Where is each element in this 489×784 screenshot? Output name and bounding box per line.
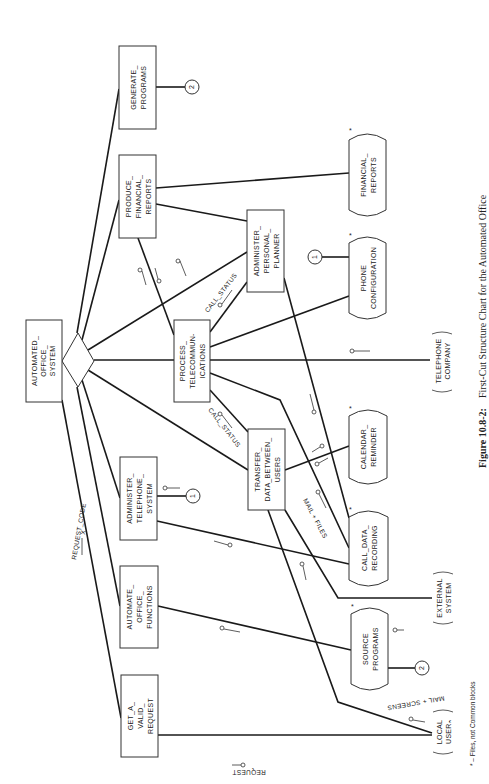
- module-transfer-data-between-users: TRANSFER_ DATA_BETWEEN_ USERS: [248, 429, 285, 510]
- module-process-telecommunications: PROCESS_ TELECOMMUN- ICATIONS: [174, 320, 210, 402]
- connector-1-telephone: 1: [186, 489, 200, 503]
- svg-text:CONFIGURATION: CONFIGURATION: [370, 247, 377, 309]
- file-call-data-recording: * CALL_DATA_ RECORDING: [349, 506, 388, 586]
- svg-text:GET_A_: GET_A_: [127, 702, 135, 731]
- svg-text:2: 2: [188, 85, 195, 89]
- connector-2-source: 2: [415, 661, 429, 675]
- svg-text:PRODUCE_: PRODUCE_: [125, 176, 133, 217]
- svg-text:EXTERNAL: EXTERNAL: [436, 578, 443, 617]
- external-local-user: LOCAL USERₙ: [433, 710, 453, 754]
- svg-text:REQUEST: REQUEST: [147, 698, 155, 734]
- module-produce-financial-reports: PRODUCE_ FINANCIAL_ REPORTS: [119, 155, 156, 238]
- svg-text:*: *: [349, 127, 352, 134]
- svg-text:AUTOMATED_: AUTOMATED_: [31, 336, 39, 386]
- svg-text:1: 1: [311, 255, 318, 259]
- svg-text:MAIL + FILES: MAIL + FILES: [302, 497, 329, 539]
- module-root: AUTOMATED_ OFFICE_ SYSTEM: [26, 320, 62, 402]
- svg-text:1: 1: [189, 494, 196, 498]
- svg-text:ICATIONS: ICATIONS: [199, 344, 206, 379]
- file-financial-reports: * FINANCIAL_ REPORTS: [349, 127, 386, 216]
- svg-text:GENERATE_: GENERATE_: [130, 65, 138, 110]
- svg-text:FUNCTIONS: FUNCTIONS: [146, 585, 153, 629]
- footnote: * – Files, not Common blocks: [469, 681, 476, 766]
- svg-text:SYSTEM: SYSTEM: [445, 583, 452, 614]
- file-calendar-reminder: * CALENDAR_ REMINDER: [349, 405, 387, 484]
- svg-text:COMPANY: COMPANY: [444, 342, 451, 379]
- svg-text:AUTOMATE_: AUTOMATE_: [126, 585, 134, 630]
- svg-text:CALL_STATUS: CALL_STATUS: [203, 271, 239, 314]
- svg-text:OFFICE_: OFFICE_: [40, 345, 48, 377]
- svg-text:DATA_BETWEEN_: DATA_BETWEEN_: [264, 438, 272, 502]
- svg-text:PROGRAMS: PROGRAMS: [140, 66, 147, 109]
- svg-text:REPORTS: REPORTS: [145, 179, 152, 215]
- svg-text:CALL_STATUS: CALL_STATUS: [206, 406, 242, 449]
- figure-caption: Figure 10.8-2: First-Cut Structure Chart…: [477, 194, 488, 468]
- module-administer-telephone-system: ADMINISTER_ TELEPHONE_ SYSTEM: [120, 457, 157, 540]
- svg-text:*: *: [349, 405, 352, 412]
- svg-text:TELEPHONE_: TELEPHONE_: [136, 474, 144, 523]
- svg-text:TELECOMMUN-: TELECOMMUN-: [189, 333, 196, 389]
- svg-text:*: *: [349, 232, 352, 239]
- svg-text:USERₙ: USERₙ: [445, 720, 452, 744]
- svg-text:REPORTS: REPORTS: [370, 157, 377, 193]
- connector-2-top: 2: [185, 80, 199, 94]
- svg-text:PROGRAMS: PROGRAMS: [372, 627, 379, 670]
- file-source-programs: * SOURCE PROGRAMS: [351, 603, 388, 690]
- decision-diamond: [62, 333, 94, 387]
- svg-text:ADMINISTER_: ADMINISTER_: [253, 226, 261, 276]
- structure-chart: AUTOMATED_ OFFICE_ SYSTEM GENERATE_ PROG…: [0, 0, 489, 784]
- svg-text:PERSONAL_: PERSONAL_: [263, 229, 271, 274]
- svg-text:OFFICE_: OFFICE_: [136, 591, 144, 623]
- svg-text:CALL_DATA_: CALL_DATA_: [361, 525, 369, 571]
- svg-text:REMINDER: REMINDER: [370, 427, 377, 467]
- svg-text:2: 2: [418, 666, 425, 670]
- svg-text:PHONE: PHONE: [360, 265, 367, 291]
- svg-text:*: *: [351, 603, 354, 610]
- external-telephone-company: TELEPHONE COMPANY: [432, 332, 452, 392]
- svg-text:USERS: USERS: [274, 457, 281, 483]
- external-external-system: EXTERNAL SYSTEM: [433, 572, 453, 624]
- svg-text:REQUEST: REQUEST: [232, 768, 266, 776]
- svg-text:PLANNER: PLANNER: [273, 233, 280, 268]
- svg-text:*: *: [349, 506, 352, 513]
- module-get-a-valid-request: GET_A_ VALID_ REQUEST: [121, 675, 158, 757]
- svg-text:TRANSFER_: TRANSFER_: [254, 447, 262, 491]
- module-generate-programs: GENERATE_ PROGRAMS: [119, 46, 156, 129]
- connector-1-phone: 1: [308, 250, 322, 264]
- svg-text:MAIL + SCREENS: MAIL + SCREENS: [386, 695, 445, 712]
- svg-text:VALID_: VALID_: [137, 703, 145, 728]
- file-phone-configuration: * PHONE CONFIGURATION: [349, 232, 386, 319]
- svg-text:Figure 10.8-2:: Figure 10.8-2:: [477, 408, 488, 468]
- module-administer-personal-planner: ADMINISTER_ PERSONAL_ PLANNER: [247, 210, 284, 292]
- svg-text:LOCAL: LOCAL: [436, 720, 443, 744]
- svg-text:CALENDAR_: CALENDAR_: [360, 425, 368, 470]
- svg-text:PROCESS_: PROCESS_: [179, 341, 187, 382]
- svg-text:SOURCE: SOURCE: [362, 633, 369, 665]
- svg-text:ADMINISTER_: ADMINISTER_: [126, 473, 134, 523]
- svg-text:First-Cut Structure Chart for: First-Cut Structure Chart for the Automa…: [477, 194, 488, 398]
- svg-text:* – Files, not Common blocks: * – Files, not Common blocks: [469, 681, 476, 766]
- svg-text:FINANCIAL_: FINANCIAL_: [360, 153, 368, 196]
- svg-text:SYSTEM: SYSTEM: [146, 483, 153, 514]
- svg-text:TELEPHONE: TELEPHONE: [435, 338, 442, 383]
- svg-text:RECORDING: RECORDING: [371, 525, 378, 570]
- module-automate-office-functions: AUTOMATE_ OFFICE_ FUNCTIONS: [120, 566, 158, 648]
- svg-text:FINANCIAL_: FINANCIAL_: [135, 175, 143, 218]
- svg-text:SYSTEM: SYSTEM: [49, 346, 56, 377]
